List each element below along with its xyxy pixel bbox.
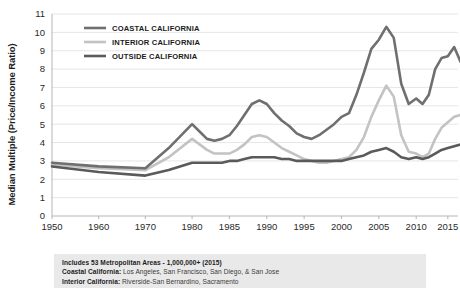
legend-label: INTERIOR CALIFORNIA bbox=[112, 38, 200, 47]
footnote-line-3: Interior California: Riverside-San Berna… bbox=[62, 277, 279, 286]
series-line bbox=[52, 27, 460, 168]
footnote-coastal-value: Los Angeles, San Francisco, San Diego, &… bbox=[123, 268, 279, 275]
x-tick-label: 1990 bbox=[256, 221, 277, 232]
y-tick-label: 0 bbox=[40, 210, 45, 221]
y-tick-label: 7 bbox=[40, 82, 45, 93]
y-tick-label: 9 bbox=[40, 45, 45, 56]
y-axis-title: Median Multiple (Price/Income Ratio) bbox=[0, 0, 22, 248]
line-chart-svg: 01234567891011 1950196019701980198519901… bbox=[22, 6, 460, 246]
chart-legend: COASTAL CALIFORNIAINTERIOR CALIFORNIAOUT… bbox=[84, 24, 200, 61]
footnote-line-2: Coastal California: Los Angeles, San Fra… bbox=[62, 267, 279, 276]
y-tick-label: 6 bbox=[40, 100, 45, 111]
x-tick-label: 2005 bbox=[368, 221, 389, 232]
y-tick-label: 8 bbox=[40, 63, 45, 74]
footnote-lines: Includes 53 Metropolitan Areas - 1,000,0… bbox=[62, 258, 279, 286]
y-tick-label: 5 bbox=[40, 119, 45, 130]
x-tick-label: 2000 bbox=[331, 221, 352, 232]
y-tick-label: 10 bbox=[34, 27, 45, 38]
x-tick-label: 1995 bbox=[294, 221, 315, 232]
chart-figure: Median Multiple (Price/Income Ratio) 012… bbox=[0, 0, 460, 300]
y-tick-label: 4 bbox=[40, 137, 45, 148]
footnote-box: Includes 53 Metropolitan Areas - 1,000,0… bbox=[54, 254, 426, 288]
series-line bbox=[52, 144, 460, 175]
footnote-interior-label: Interior California: bbox=[62, 278, 120, 285]
x-tick-label: 1960 bbox=[88, 221, 109, 232]
x-tick-label: 1985 bbox=[219, 221, 240, 232]
x-tick-label: 2015 bbox=[437, 221, 458, 232]
legend-label: COASTAL CALIFORNIA bbox=[112, 24, 200, 33]
data-series-group bbox=[52, 27, 460, 176]
x-tick-label: 1980 bbox=[181, 221, 202, 232]
y-axis-ticks: 01234567891011 bbox=[34, 8, 45, 221]
footnote-line-1-text: Includes 53 Metropolitan Areas - 1,000,0… bbox=[62, 259, 222, 266]
x-tick-label: 1970 bbox=[135, 221, 156, 232]
y-tick-label: 11 bbox=[35, 8, 45, 19]
y-tick-label: 1 bbox=[40, 192, 45, 203]
footnote-interior-value: Riverside-San Bernardino, Sacramento bbox=[122, 278, 239, 285]
footnote-line-1: Includes 53 Metropolitan Areas - 1,000,0… bbox=[62, 258, 279, 267]
legend-label: OUTSIDE CALIFORNIA bbox=[112, 52, 198, 61]
x-axis-ticks: 1950196019701980198519901995200020052010… bbox=[41, 216, 458, 232]
plot-area: 01234567891011 1950196019701980198519901… bbox=[22, 6, 460, 246]
y-axis-title-text: Median Multiple (Price/Income Ratio) bbox=[6, 43, 17, 205]
x-tick-label: 2010 bbox=[406, 221, 427, 232]
y-tick-label: 2 bbox=[40, 174, 45, 185]
footnote-coastal-label: Coastal California: bbox=[62, 268, 121, 275]
y-tick-label: 3 bbox=[40, 155, 45, 166]
x-tick-label: 1950 bbox=[41, 221, 62, 232]
